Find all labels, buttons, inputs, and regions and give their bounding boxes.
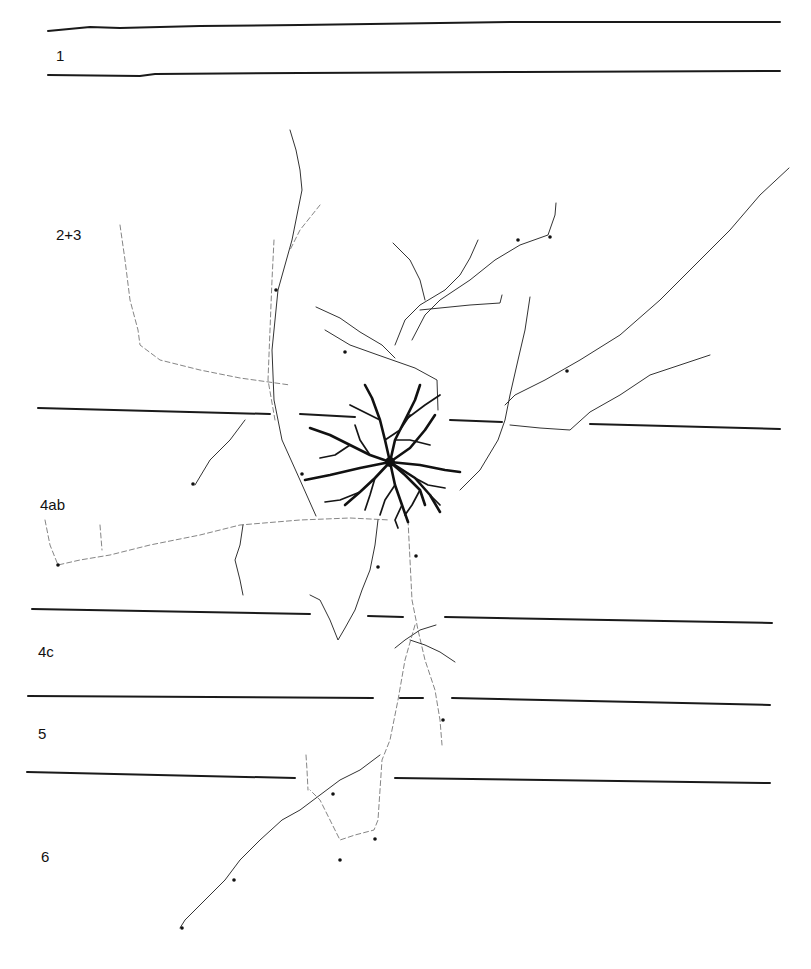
neuron-faint-processes	[45, 130, 789, 928]
neuron-boutons	[56, 235, 569, 930]
neuron-drawing	[0, 0, 811, 969]
neuron-soma-dendrites	[305, 385, 460, 528]
